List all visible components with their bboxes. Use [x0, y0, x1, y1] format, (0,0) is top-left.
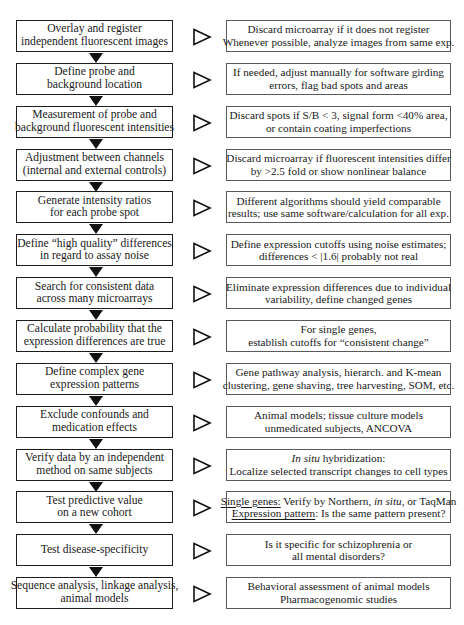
- text-line: Define complex gene: [45, 366, 144, 379]
- text-line: background location: [47, 79, 142, 92]
- text-line: clustering, gene shaving, tree harvestin…: [223, 379, 454, 392]
- right-triangle-icon: [192, 285, 212, 303]
- text-line: Adjustment between channels: [23, 152, 166, 165]
- text-fragment: : Is the same pattern present?: [315, 507, 445, 519]
- right-triangle-icon: [192, 157, 212, 175]
- down-triangle-icon: [88, 53, 104, 63]
- text-line: (internal and external controls): [23, 165, 166, 178]
- text-line: in regard to assay noise: [17, 250, 172, 263]
- text-line: Measurement of probe and: [15, 109, 174, 122]
- process-step-box: Adjustment between channels(internal and…: [16, 149, 173, 181]
- flow-row: Sequence analysis, linkage analysis,anim…: [0, 577, 464, 610]
- text-line: differences < |1.6| probably not real: [231, 250, 447, 263]
- flow-row: Define complex geneexpression patternsGe…: [0, 363, 464, 396]
- down-triangle-icon: [88, 396, 104, 406]
- right-triangle-icon: [192, 457, 212, 475]
- right-triangle-icon: [192, 542, 212, 560]
- text-line: Test disease-specificity: [41, 544, 149, 557]
- text-line: background fluorescent intensities: [15, 122, 174, 135]
- text-line: Define expression cutoffs using noise es…: [231, 238, 447, 251]
- down-triangle-icon: [88, 310, 104, 320]
- text-fragment: hybridization:: [320, 452, 386, 464]
- text-line: animal models: [11, 593, 179, 606]
- right-triangle-icon: [192, 71, 212, 89]
- guideline-note-box: Different algorithms should yield compar…: [226, 191, 451, 223]
- flow-row: Search for consistent dataacross many mi…: [0, 277, 464, 310]
- text-line: expression patterns: [45, 379, 144, 392]
- right-triangle-icon: [192, 28, 212, 46]
- process-step-box: Define “high quality” differencesin rega…: [16, 234, 173, 266]
- process-step-box: Define probe andbackground location: [16, 63, 173, 95]
- text-line: medication effects: [40, 422, 149, 435]
- down-triangle-icon: [88, 182, 104, 192]
- guideline-note-box: Is it specific for schizophrenia orall m…: [226, 534, 451, 566]
- guideline-note-box: Eliminate expression differences due to …: [226, 277, 451, 309]
- right-triangle-icon: [192, 585, 212, 603]
- text-line: Gene pathway analysis, hierarch. and K-m…: [223, 366, 454, 379]
- text-line: independent fluorescent images: [21, 36, 168, 49]
- flow-row: Measurement of probe andbackground fluor…: [0, 106, 464, 139]
- flow-row: Generate intensity ratiosfor each probe …: [0, 191, 464, 224]
- text-line: expression differences are true: [24, 336, 166, 349]
- process-step-box: Verify data by an independentmethod on s…: [16, 449, 173, 481]
- guideline-note-box: In situ hybridization:Localize selected …: [226, 449, 451, 481]
- text-line: all mental disorders?: [265, 550, 413, 563]
- text-line: unmedicated subjects, ANCOVA: [254, 422, 423, 435]
- process-step-box: Test disease-specificity: [16, 534, 173, 566]
- down-triangle-icon: [88, 96, 104, 106]
- flow-row: Adjustment between channels(internal and…: [0, 149, 464, 182]
- text-line: results; use same software/calculation f…: [228, 207, 449, 220]
- italic-term: In situ: [292, 452, 320, 464]
- text-line: for each probe spot: [38, 207, 151, 220]
- down-triangle-icon: [88, 567, 104, 577]
- down-triangle-icon: [88, 139, 104, 149]
- text-line: across many microarrays: [35, 293, 154, 306]
- text-fragment: or TaqMan: [404, 495, 456, 507]
- process-step-box: Generate intensity ratiosfor each probe …: [16, 191, 173, 223]
- down-triangle-icon: [88, 267, 104, 277]
- right-triangle-icon: [192, 371, 212, 389]
- guideline-note-box: Gene pathway analysis, hierarch. and K-m…: [226, 363, 451, 395]
- guideline-note-box: Discard spots if S/B < 3, signal form <4…: [226, 106, 451, 138]
- text-line: Exclude confounds and: [40, 409, 149, 422]
- text-line: establish cutoffs for “consistent change…: [248, 336, 429, 349]
- text-line: Is it specific for schizophrenia or: [265, 538, 413, 551]
- underlined-heading: Single genes:: [221, 495, 281, 507]
- text-line: on a new cohort: [46, 507, 142, 520]
- text-line: Discard spots if S/B < 3, signal form <4…: [230, 109, 448, 122]
- flow-row: Test disease-specificityIs it specific f…: [0, 534, 464, 567]
- text-line: Behavioral assessment of animal models: [247, 580, 429, 593]
- process-step-box: Sequence analysis, linkage analysis,anim…: [16, 577, 173, 609]
- process-step-box: Calculate probability that theexpression…: [16, 320, 173, 352]
- text-line: or contain coating imperfections: [230, 122, 448, 135]
- guideline-note-box: Define expression cutoffs using noise es…: [226, 234, 451, 266]
- flow-row: Test predictive valueon a new cohortSing…: [0, 491, 464, 524]
- right-triangle-icon: [192, 242, 212, 260]
- underlined-heading: Expression pattern: [232, 507, 316, 519]
- down-triangle-icon: [88, 524, 104, 534]
- down-triangle-icon: [88, 353, 104, 363]
- text-line: method on same subjects: [25, 465, 164, 478]
- guideline-note-box: For single genes,establish cutoffs for “…: [226, 320, 451, 352]
- guideline-note-box: Animal models; tissue culture modelsunme…: [226, 406, 451, 438]
- guideline-note-box: Behavioral assessment of animal modelsPh…: [226, 577, 451, 609]
- text-fragment: Verify by Northern,: [281, 495, 374, 507]
- text-line: variability, define changed genes: [226, 293, 451, 306]
- down-triangle-icon: [88, 482, 104, 492]
- flow-row: Overlay and registerindependent fluoresc…: [0, 20, 464, 53]
- flow-row: Exclude confounds andmedication effectsA…: [0, 406, 464, 439]
- text-line: Whenever possible, analyze images from s…: [223, 36, 455, 49]
- down-triangle-icon: [88, 224, 104, 234]
- text-line: For single genes,: [248, 323, 429, 336]
- process-step-box: Test predictive valueon a new cohort: [16, 491, 173, 523]
- text-line: If needed, adjust manually for software …: [233, 66, 444, 79]
- text-line: Animal models; tissue culture models: [254, 409, 423, 422]
- text-line: errors, flag bad spots and areas: [233, 79, 444, 92]
- down-triangle-icon: [88, 439, 104, 449]
- guideline-note-box: Single genes: Verify by Northern, in sit…: [226, 491, 451, 523]
- right-triangle-icon: [192, 199, 212, 217]
- flow-row: Calculate probability that theexpression…: [0, 320, 464, 353]
- right-triangle-icon: [192, 328, 212, 346]
- right-triangle-icon: [192, 499, 212, 517]
- text-line: Discard microarray if fluorescent intens…: [226, 152, 450, 165]
